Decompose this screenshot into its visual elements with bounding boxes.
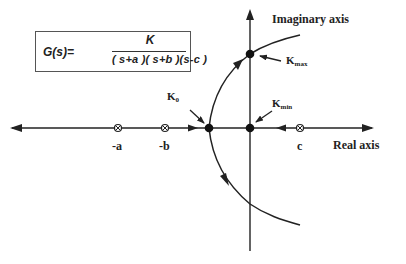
real-axis-right-arrow-icon [362,124,374,132]
k0-point [205,124,214,133]
kmax-label-base: K [286,54,295,66]
pole-label-a: -a [112,139,122,154]
fraction-line [112,51,186,52]
kmax-pointer-arrow-icon [260,56,281,61]
k0-label-sub: 0 [176,96,180,104]
pole-marker-a [115,125,122,132]
locus-direction-arrow-icon [276,125,286,132]
pole-label-c: c [297,139,302,154]
upper-branch [209,35,300,128]
imaginary-axis-arrow-icon [246,9,254,20]
k0-label: K0 [167,90,179,104]
kmin-label: Kmin [272,97,292,111]
pole-marker-c [297,125,304,132]
k0-label-base: K [167,90,176,102]
kmin-point [246,124,255,133]
kmax-label-sub: max [295,60,308,68]
real-axis-label: Real axis [333,138,379,153]
kmax-point [246,50,255,59]
kmin-pointer-arrow-icon [256,111,272,122]
k0-pointer-arrow-icon [190,110,204,123]
transfer-function-denominator: ( s+a )( s+b )(s-c ) [112,53,207,65]
kmax-label: Kmax [286,54,307,68]
pole-label-b: -b [159,139,170,154]
kmin-label-sub: min [281,103,293,111]
transfer-function-lhs: G(s)= [43,45,74,59]
real-axis-left-arrow-icon [10,124,22,132]
pole-marker-b [162,125,169,132]
locus-direction-arrow-icon [188,125,198,132]
transfer-function-box: G(s)= K ( s+a )( s+b )(s-c ) [35,31,191,72]
kmin-label-base: K [272,97,281,109]
real-axis [10,124,374,132]
transfer-function-numerator: K [110,33,190,47]
imaginary-axis-label: Imaginary axis [272,12,349,27]
